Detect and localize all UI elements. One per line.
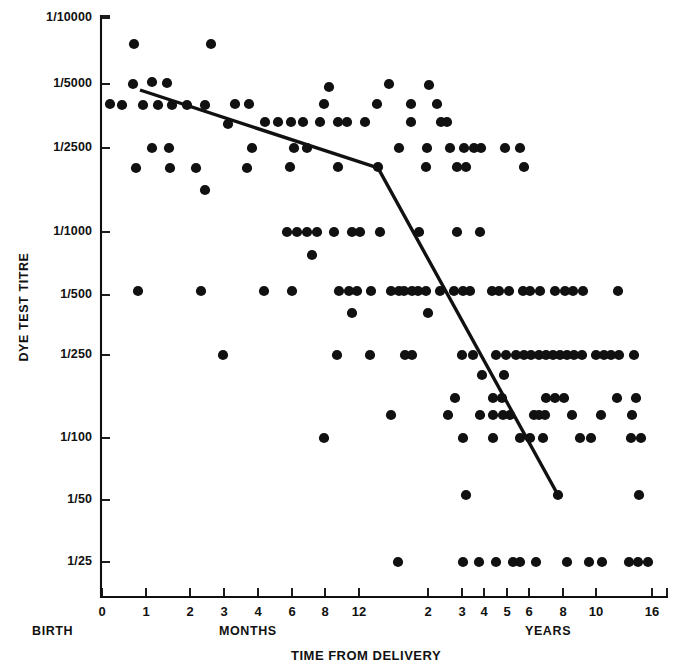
data-point [461,162,471,172]
data-point [559,393,569,403]
data-point [319,433,329,443]
data-point [386,410,396,420]
data-point [147,77,157,87]
data-point [333,117,343,127]
data-point [332,350,342,360]
data-point [260,117,270,127]
data-point [247,143,257,153]
data-point [206,39,216,49]
data-point [218,350,228,360]
data-point [105,99,115,109]
data-point [242,163,252,173]
data-point [315,117,325,127]
data-point [597,557,607,567]
data-point [445,143,455,153]
data-point [452,162,462,172]
data-point [422,143,432,153]
data-point [366,286,376,296]
data-point [365,350,375,360]
data-point [406,99,416,109]
data-point [504,286,514,296]
data-point [624,557,634,567]
data-point [499,370,509,380]
data-point [612,393,622,403]
data-point [259,286,269,296]
data-point [138,100,148,110]
data-point [614,350,624,360]
data-point [562,557,572,567]
data-point [465,286,475,296]
data-point [285,162,295,172]
data-point [459,143,469,153]
data-point [352,286,362,296]
data-point [442,117,452,127]
data-point [372,99,382,109]
data-point [394,143,404,153]
data-point [162,78,172,88]
data-point [324,82,334,92]
data-point [421,162,431,172]
data-point [423,308,433,318]
data-point [117,100,127,110]
data-point [406,117,416,127]
data-point [302,227,312,237]
data-point [476,143,486,153]
data-point [128,79,138,89]
data-point [333,162,343,172]
data-point [475,227,485,237]
data-point [200,185,210,195]
data-point [191,163,201,173]
data-point [421,286,431,296]
data-point [631,393,641,403]
data-point [515,143,525,153]
data-point [535,286,545,296]
data-point [319,99,329,109]
data-point [461,490,471,500]
data-points-group [105,39,653,567]
data-point [298,117,308,127]
data-point [244,99,254,109]
data-point [633,557,643,567]
data-point [449,286,459,296]
data-point [636,433,646,443]
data-point [153,100,163,110]
data-point [584,557,594,567]
data-point [577,350,587,360]
data-point [575,433,585,443]
data-point [586,433,596,443]
data-point [568,286,578,296]
data-point [491,557,501,567]
data-point [273,117,283,127]
data-point [282,227,292,237]
data-point [286,117,296,127]
data-point [355,227,365,237]
data-point [540,410,550,420]
data-point [287,286,297,296]
data-point [458,433,468,443]
data-point [475,410,485,420]
data-point [165,163,175,173]
data-point [424,80,434,90]
data-point [643,557,653,567]
data-point [147,143,157,153]
data-point [458,557,468,567]
data-point [596,410,606,420]
data-point [613,286,623,296]
data-point [626,433,636,443]
data-point [342,117,352,127]
data-point [578,286,588,296]
data-point [488,393,498,403]
data-point [329,227,339,237]
data-point [452,227,462,237]
data-point [292,227,302,237]
data-point [468,350,478,360]
data-point [519,162,529,172]
data-point [538,433,548,443]
data-point [550,286,560,296]
data-point [133,286,143,296]
data-point [393,557,403,567]
data-point [450,393,460,403]
data-point [164,143,174,153]
data-point [384,79,394,89]
data-point [515,557,525,567]
